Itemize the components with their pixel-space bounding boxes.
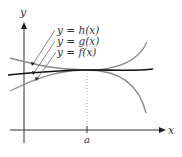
h-pointer-line	[33, 30, 55, 64]
a-tick-label: a	[84, 134, 90, 145]
y-axis-label: y	[19, 6, 27, 19]
y-axis-arrow-icon	[21, 22, 27, 29]
x-axis-label: x	[168, 124, 175, 137]
x-axis-arrow-icon	[159, 127, 166, 133]
squeeze-theorem-diagram: x y a y = h(x) y = g(x) y = f(x)	[0, 0, 182, 157]
curve-f	[10, 70, 146, 113]
curve-g	[8, 69, 153, 75]
f-curve-label: y = f(x)	[56, 46, 96, 58]
